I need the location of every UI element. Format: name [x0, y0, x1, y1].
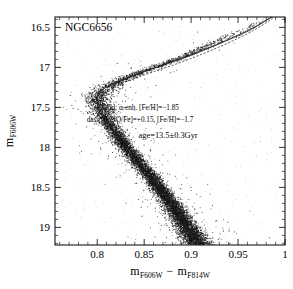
x-axis-title: mF606W − mF814W — [130, 264, 210, 280]
y-tick-label: 17 — [39, 61, 51, 73]
y-tick-label: 18 — [39, 141, 51, 153]
cmd-figure: 0.80.850.90.95116.51717.51818.519mF606W … — [0, 0, 293, 289]
x-tick-label: 1 — [282, 248, 288, 260]
y-axis-title: mF606W — [2, 114, 18, 147]
age-note: age=13.5±0.3Gyr — [139, 131, 198, 140]
plot-canvas: 0.80.850.90.95116.51717.51818.519mF606W … — [0, 0, 293, 289]
y-tick-label: 19 — [39, 221, 51, 233]
x-tick-label: 0.85 — [135, 248, 155, 260]
y-tick-label: 17.5 — [31, 101, 51, 113]
y-tick-label: 16.5 — [31, 21, 51, 33]
svg-text:mF606W: mF606W — [2, 114, 18, 147]
x-tick-label: 0.8 — [90, 248, 104, 260]
x-tick-label: 0.95 — [228, 248, 248, 260]
y-tick-label: 18.5 — [31, 181, 51, 193]
cluster-name-label: NGC6656 — [65, 21, 113, 33]
solid-isochrone-note: solid: α-enh. [Fe/H]=−1.85 — [101, 104, 179, 112]
dash-isochrone-note: dash: [CNO/Fe]=+0.15, [Fe/H]=−1.7 — [87, 116, 194, 124]
labels-layer: 0.80.850.90.95116.51717.51818.519mF606W … — [2, 21, 288, 280]
x-tick-label: 0.9 — [184, 248, 198, 260]
